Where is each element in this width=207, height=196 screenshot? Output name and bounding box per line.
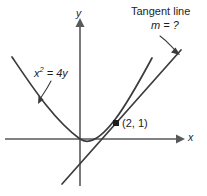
x-axis-arrowhead xyxy=(176,135,185,144)
y-axis-arrowhead xyxy=(76,18,85,27)
slope-label-leader-arrowhead xyxy=(171,48,180,56)
x-axis-label: x xyxy=(188,132,193,143)
y-axis-label: y xyxy=(76,8,81,19)
tangent-line-caption: Tangent line xyxy=(131,6,190,17)
curve-equation-remainder: = 4y xyxy=(47,67,68,79)
slope-question-label: m = ? xyxy=(151,20,179,31)
curve-equation-label: x2 = 4y xyxy=(34,66,68,79)
slope-label-leader xyxy=(160,36,175,50)
curve-equation-exponent: 2 xyxy=(40,65,44,74)
tangency-point-marker xyxy=(113,120,119,126)
tangent-line-figure: Tangent line m = ? x2 = 4y (2, 1) x y xyxy=(0,0,207,196)
curve-label-leader xyxy=(40,81,51,99)
tangency-point-label: (2, 1) xyxy=(122,118,148,129)
